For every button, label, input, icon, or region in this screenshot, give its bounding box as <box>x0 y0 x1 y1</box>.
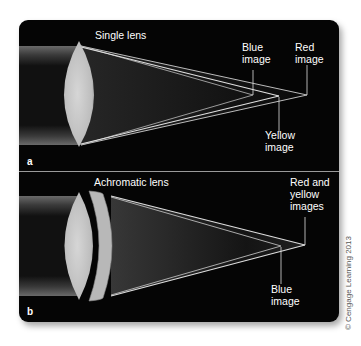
panel-letter-b: b <box>27 306 33 317</box>
blue-image-label: Blue image <box>271 283 300 307</box>
red-image-label: Red image <box>295 41 324 65</box>
yellow-image-label: Yellow image <box>265 129 295 153</box>
panel-b-achromatic-lens: Achromatic lens Red and yellow images Bl… <box>19 172 339 322</box>
achromatic-lens-label: Achromatic lens <box>94 176 169 188</box>
figure: Single lens Blue image Red image Yellow … <box>19 20 339 322</box>
copyright-notice: © Cengage Learning 2013 <box>344 236 353 330</box>
red-yellow-images-label: Red and yellow images <box>290 176 330 212</box>
panel-a-single-lens: Single lens Blue image Red image Yellow … <box>19 20 339 171</box>
single-lens-label: Single lens <box>95 29 146 41</box>
blue-image-label: Blue image <box>242 41 271 65</box>
panel-letter-a: a <box>27 156 33 167</box>
